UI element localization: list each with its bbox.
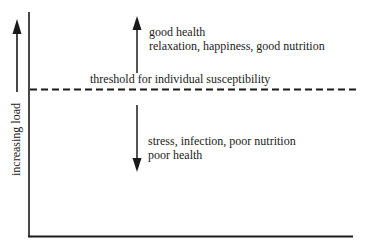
threshold-label: threshold for individual susceptibility [90,72,270,86]
positive-factors-label: relaxation, happiness, good nutrition [149,39,325,53]
increasing-load-arrow-icon [13,19,22,92]
up-arrow-icon [133,16,142,73]
poor-health-label: poor health [148,148,202,162]
good-health-label: good health [149,25,205,39]
negative-factors-label: stress, infection, poor nutrition [148,134,296,148]
down-arrow-icon [133,105,142,172]
susceptibility-diagram: good health relaxation, happiness, good … [0,0,369,244]
y-axis-label: increasing load [9,103,24,176]
